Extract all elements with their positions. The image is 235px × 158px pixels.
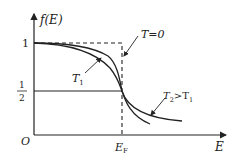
arrow-t0 <box>124 36 138 56</box>
arrow-t1 <box>85 58 101 73</box>
y-tick-half-num: 1 <box>19 80 25 90</box>
label-t1: T1 <box>72 72 84 87</box>
x-tick-fermi: EF <box>114 141 128 155</box>
origin-label: O <box>21 135 30 148</box>
label-t2: T2>T1 <box>163 90 193 104</box>
x-axis-label: E <box>214 140 224 154</box>
y-tick-one: 1 <box>22 37 29 50</box>
curve-t1 <box>34 43 150 124</box>
y-axis-label: f(E) <box>39 13 63 27</box>
curve-t2 <box>34 43 182 121</box>
fermi-dirac-diagram: T=0 T1 T2>T1 f(E) E O 1 1 2 EF <box>0 0 235 158</box>
label-t0: T=0 <box>141 28 165 41</box>
y-tick-half-den: 2 <box>19 93 25 103</box>
